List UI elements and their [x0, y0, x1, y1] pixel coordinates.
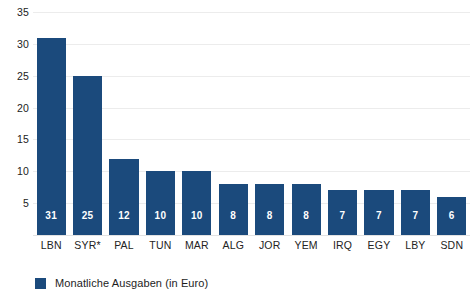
bar-value-label: 31	[37, 211, 66, 221]
x-axis-tick-label: EGY	[361, 240, 397, 251]
x-axis-tick-label: JOR	[252, 240, 288, 251]
x-axis-tick-label: SYR*	[69, 240, 105, 251]
bar[interactable]: 8	[255, 184, 284, 235]
bar-column[interactable]: 8	[255, 12, 284, 235]
bar[interactable]: 8	[292, 184, 321, 235]
y-axis-tick-label: 30	[3, 39, 29, 50]
bar-chart: 5101520253035 31251210108887776 LBNSYR*P…	[0, 0, 474, 308]
x-axis-tick-label: MAR	[179, 240, 215, 251]
y-axis-tick-label: 25	[3, 71, 29, 82]
bar-column[interactable]: 7	[401, 12, 430, 235]
bar-value-label: 10	[182, 211, 211, 221]
bar-value-label: 7	[328, 211, 357, 221]
bar-column[interactable]: 31	[37, 12, 66, 235]
axis-baseline	[33, 235, 470, 236]
bar-column[interactable]: 8	[219, 12, 248, 235]
bar[interactable]: 6	[437, 197, 466, 235]
x-axis-tick-label: YEM	[288, 240, 324, 251]
x-axis-tick-label: SDN	[434, 240, 470, 251]
bar[interactable]: 8	[219, 184, 248, 235]
chart-legend: Monatliche Ausgaben (in Euro)	[35, 278, 208, 289]
bar-column[interactable]: 10	[146, 12, 175, 235]
bar-column[interactable]: 7	[364, 12, 393, 235]
x-axis-tick-label: TUN	[142, 240, 178, 251]
x-axis-tick-label: PAL	[106, 240, 142, 251]
bar-value-label: 8	[255, 211, 284, 221]
bar-column[interactable]: 10	[182, 12, 211, 235]
legend-label: Monatliche Ausgaben (in Euro)	[55, 278, 208, 289]
legend-swatch-icon	[35, 278, 46, 289]
y-axis-tick-label: 5	[3, 198, 29, 209]
bar-value-label: 7	[364, 211, 393, 221]
bar[interactable]: 7	[328, 190, 357, 235]
y-axis-tick-label: 35	[3, 7, 29, 18]
bar[interactable]: 12	[109, 159, 138, 235]
bars-layer: 31251210108887776	[33, 12, 470, 235]
bar-column[interactable]: 6	[437, 12, 466, 235]
bar-value-label: 10	[146, 211, 175, 221]
y-axis-tick-label: 15	[3, 134, 29, 145]
y-axis-tick-label: 10	[3, 166, 29, 177]
bar[interactable]: 7	[364, 190, 393, 235]
x-axis-tick-label: LBN	[33, 240, 69, 251]
bar-value-label: 25	[73, 211, 102, 221]
bar-column[interactable]: 7	[328, 12, 357, 235]
bar[interactable]: 10	[182, 171, 211, 235]
x-axis-labels: LBNSYR*PALTUNMARALGJORYEMIRQEGYLBYSDN	[33, 240, 470, 256]
y-axis-tick-label: 20	[3, 103, 29, 114]
bar[interactable]: 10	[146, 171, 175, 235]
bar-value-label: 8	[219, 211, 248, 221]
x-axis-tick-label: IRQ	[324, 240, 360, 251]
bar-value-label: 8	[292, 211, 321, 221]
bar-column[interactable]: 8	[292, 12, 321, 235]
bar-value-label: 6	[437, 211, 466, 221]
x-axis-tick-label: LBY	[397, 240, 433, 251]
bar[interactable]: 31	[37, 38, 66, 236]
bar-column[interactable]: 12	[109, 12, 138, 235]
bar-value-label: 7	[401, 211, 430, 221]
y-axis: 5101520253035	[0, 12, 29, 235]
x-axis-tick-label: ALG	[215, 240, 251, 251]
bar-column[interactable]: 25	[73, 12, 102, 235]
bar[interactable]: 25	[73, 76, 102, 235]
bar[interactable]: 7	[401, 190, 430, 235]
bar-value-label: 12	[109, 211, 138, 221]
